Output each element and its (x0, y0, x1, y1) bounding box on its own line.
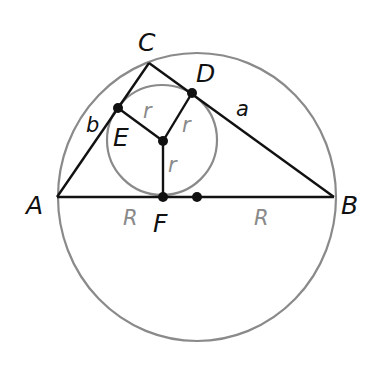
side-ac (57, 63, 149, 197)
label-side-b: b (86, 113, 99, 137)
label-b: B (341, 191, 358, 220)
label-r-ie: r (143, 99, 153, 123)
circumcenter-dot (192, 192, 202, 202)
diagram-canvas: C D E A B F a b r r r R R (0, 0, 366, 366)
label-r-id: r (182, 113, 192, 137)
side-bc (149, 63, 334, 197)
label-r-big-left: R (123, 206, 138, 230)
label-r-if: r (168, 153, 178, 177)
label-a: A (24, 191, 43, 220)
incenter-dot (158, 136, 168, 146)
label-f: F (153, 209, 168, 238)
point-d-dot (187, 88, 197, 98)
label-r-big-right: R (254, 206, 269, 230)
label-c: C (138, 28, 156, 57)
geometry-figure: C D E A B F a b r r r R R (0, 0, 366, 366)
label-e: E (113, 123, 129, 152)
label-side-a: a (236, 97, 249, 121)
point-e-dot (113, 103, 123, 113)
point-f-dot (158, 192, 168, 202)
label-d: D (196, 59, 215, 88)
